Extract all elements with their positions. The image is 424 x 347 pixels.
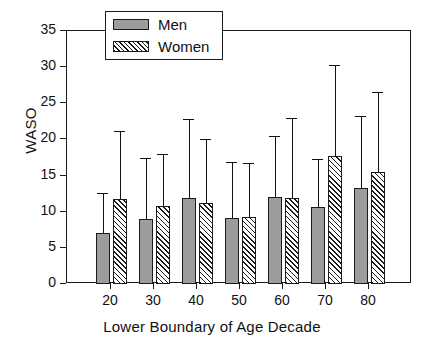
x-axis-tick-label: 20 — [90, 292, 130, 308]
bar-men-20 — [96, 233, 110, 284]
bar-men-70 — [311, 207, 325, 284]
error-bar-stem-men-50 — [232, 162, 233, 218]
error-bar-stem-women-60 — [292, 118, 293, 198]
bar-men-30 — [139, 219, 153, 284]
error-bar-cap-women-70 — [329, 65, 340, 66]
bar-women-80 — [371, 172, 385, 284]
x-axis-tick-mark — [196, 283, 197, 289]
x-axis-tick-label: 80 — [348, 292, 388, 308]
y-axis-tick-label: 5 — [26, 238, 56, 254]
x-axis-tick-mark — [325, 283, 326, 289]
bar-men-40 — [182, 198, 196, 284]
error-bar-cap-women-20 — [114, 131, 125, 132]
error-bar-cap-women-30 — [157, 154, 168, 155]
x-axis-tick-label: 50 — [219, 292, 259, 308]
error-bar-cap-women-50 — [243, 163, 254, 164]
plot-area — [66, 30, 411, 283]
error-bar-cap-women-40 — [200, 139, 211, 140]
bar-women-50 — [242, 217, 256, 284]
legend-label-men: Men — [158, 16, 187, 33]
chart-legend: Men Women — [105, 11, 223, 60]
error-bar-cap-men-50 — [226, 162, 237, 163]
error-bar-cap-men-30 — [140, 158, 151, 159]
y-axis-tick-label: 0 — [26, 274, 56, 290]
y-axis-tick-label: 35 — [26, 21, 56, 37]
error-bar-stem-women-80 — [378, 92, 379, 172]
x-axis-tick-label: 70 — [305, 292, 345, 308]
legend-swatch-men — [113, 19, 149, 30]
error-bar-stem-women-30 — [163, 154, 164, 206]
error-bar-stem-women-40 — [206, 139, 207, 203]
error-bar-stem-men-60 — [275, 136, 276, 197]
waso-bar-chart-figure: WASO 05101520253035 20304050607080 Lower… — [0, 0, 424, 347]
x-axis-title: Lower Boundary of Age Decade — [0, 318, 424, 335]
y-axis-tick-mark — [60, 283, 66, 284]
x-axis-tick-mark — [153, 283, 154, 289]
x-axis-tick-mark — [239, 283, 240, 289]
error-bar-stem-men-80 — [361, 116, 362, 188]
error-bar-stem-men-30 — [146, 158, 147, 219]
legend-item-women: Women — [113, 38, 209, 55]
y-axis-tick-label: 30 — [26, 57, 56, 73]
error-bar-cap-men-40 — [183, 119, 194, 120]
x-axis-tick-label: 30 — [133, 292, 173, 308]
error-bar-stem-women-50 — [249, 163, 250, 218]
legend-item-men: Men — [113, 16, 187, 33]
x-axis-tick-label: 60 — [262, 292, 302, 308]
bar-women-60 — [285, 198, 299, 284]
bar-women-70 — [328, 156, 342, 284]
x-axis-tick-mark — [110, 283, 111, 289]
error-bar-cap-women-60 — [286, 118, 297, 119]
y-axis-tick-label: 10 — [26, 202, 56, 218]
y-axis-tick-label: 25 — [26, 93, 56, 109]
error-bar-stem-women-20 — [120, 131, 121, 198]
bar-women-30 — [156, 206, 170, 284]
legend-swatch-women — [113, 41, 149, 52]
bar-women-40 — [199, 203, 213, 284]
error-bar-cap-women-80 — [372, 92, 383, 93]
bar-men-80 — [354, 188, 368, 284]
bar-men-60 — [268, 197, 282, 284]
y-axis-tick-label: 15 — [26, 166, 56, 182]
error-bar-stem-men-40 — [189, 119, 190, 198]
error-bar-cap-men-60 — [269, 136, 280, 137]
error-bar-stem-women-70 — [335, 65, 336, 156]
error-bar-cap-men-70 — [312, 159, 323, 160]
error-bar-stem-men-20 — [103, 193, 104, 233]
bar-men-50 — [225, 218, 239, 284]
error-bar-cap-men-20 — [97, 193, 108, 194]
bar-women-20 — [113, 199, 127, 284]
x-axis-tick-label: 40 — [176, 292, 216, 308]
x-axis-tick-mark — [368, 283, 369, 289]
error-bar-cap-men-80 — [355, 116, 366, 117]
x-axis-tick-mark — [282, 283, 283, 289]
error-bar-stem-men-70 — [318, 159, 319, 207]
y-axis-tick-label: 20 — [26, 129, 56, 145]
legend-label-women: Women — [158, 38, 209, 55]
